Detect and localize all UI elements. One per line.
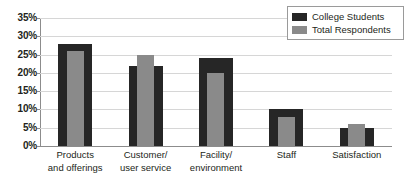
x-axis-category-label: Customer/user service <box>110 149 180 174</box>
bar-total-respondents <box>278 117 295 146</box>
bar-chart: 35%30%25%20%15%10%5%0% Productsand offer… <box>0 0 410 187</box>
x-label-line: user service <box>110 162 180 175</box>
legend-label: College Students <box>312 11 384 22</box>
legend-item-college-students: College Students <box>292 10 399 23</box>
x-label-line: Customer/ <box>124 149 168 160</box>
chart-legend: College Students Total Respondents <box>287 6 404 40</box>
x-label-line: environment <box>181 162 251 175</box>
y-axis-tick-label: 0% <box>3 141 37 151</box>
bar-total-respondents <box>137 55 154 146</box>
y-axis-tick-label: 20% <box>3 68 37 78</box>
y-axis-tick-label: 30% <box>3 31 37 41</box>
legend-item-total-respondents: Total Respondents <box>292 23 399 36</box>
legend-swatch-icon <box>292 26 307 34</box>
bar-total-respondents <box>207 73 224 146</box>
x-axis-category-label: Satisfaction <box>322 149 392 162</box>
y-axis-tick-label: 10% <box>3 104 37 114</box>
y-axis-labels: 35%30%25%20%15%10%5%0% <box>0 18 37 146</box>
x-axis-category-label: Facility/environment <box>181 149 251 174</box>
bar-total-respondents <box>67 51 84 146</box>
x-label-line: Products <box>56 149 94 160</box>
bar-group <box>181 18 251 146</box>
x-label-line: Satisfaction <box>332 149 381 160</box>
x-label-line: and offerings <box>40 162 110 175</box>
bar-total-respondents <box>348 124 365 146</box>
y-axis-tick-label: 15% <box>3 86 37 96</box>
x-label-line: Staff <box>277 149 296 160</box>
legend-swatch-icon <box>292 13 307 21</box>
x-label-line: Facility/ <box>200 149 232 160</box>
bar-group <box>40 18 110 146</box>
y-axis-tick-label: 25% <box>3 50 37 60</box>
y-axis-tick-label: 35% <box>3 13 37 23</box>
y-axis-tick-label: 5% <box>3 123 37 133</box>
legend-label: Total Respondents <box>312 24 391 35</box>
axis-baseline <box>40 146 392 147</box>
x-axis-category-label: Staff <box>251 149 321 162</box>
x-axis-labels: Productsand offeringsCustomer/user servi… <box>40 149 392 185</box>
x-axis-category-label: Productsand offerings <box>40 149 110 174</box>
bar-group <box>110 18 180 146</box>
